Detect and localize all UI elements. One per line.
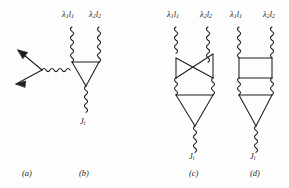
ell-subscript: 2	[98, 13, 101, 19]
feynman-diagram-vectors	[0, 0, 289, 188]
ell-subscript: 1	[176, 13, 179, 19]
panel-d-triangle-right-side	[256, 95, 272, 126]
caption-b: (b)	[79, 169, 89, 178]
panel-a-photon-wave	[42, 68, 70, 71]
panel-c-connector-left	[175, 78, 178, 95]
panel-c-triangle-left-side	[176, 95, 195, 126]
panel-b-photon-left	[70, 27, 73, 62]
panel-d-triangle-left-side	[239, 95, 256, 126]
panel-c-current-wave	[193, 126, 196, 152]
panel-d-photon-right	[270, 27, 273, 58]
ell-subscript: 2	[272, 13, 275, 19]
panel-c-photon-left	[174, 27, 177, 53]
panel-b-triangle-diagram	[70, 27, 100, 112]
panel-b-triangle-left-side	[72, 62, 86, 86]
ell-subscript: 1	[239, 13, 242, 19]
panel-c-photon1-label: λ1l1	[167, 10, 179, 19]
panel-a-fermion-line-lower	[16, 70, 42, 84]
panel-d-photon1-label: λ1l1	[230, 10, 242, 19]
panel-a-vertex-diagram	[16, 50, 70, 87]
panel-d-connector-left	[238, 78, 241, 95]
panel-b-photon1-label: λ1l1	[62, 10, 74, 19]
ell-subscript: 1	[71, 13, 74, 19]
panel-c-cross-diagonal-2	[176, 54, 213, 78]
panel-b-photon-right	[97, 27, 100, 62]
j-subscript: i	[193, 155, 195, 161]
panel-c-triangle-right-side	[195, 95, 213, 126]
panel-c-photon2-label: λ2l2	[200, 10, 212, 19]
panel-d-current-wave	[254, 126, 257, 152]
panel-c-connector-right	[212, 78, 215, 95]
panel-d-connector-right	[271, 78, 274, 95]
panel-c-current-label: Ji	[189, 152, 194, 161]
panel-d-photon2-label: λ2l2	[263, 10, 275, 19]
panel-b-current-label: Ji	[80, 117, 85, 126]
ell-subscript: 2	[209, 13, 212, 19]
figure-canvas: λ1l1 λ2l2 Ji λ1l1 λ2l2 Ji λ1l1 λ2l2 Ji (…	[0, 0, 289, 188]
j-subscript: i	[84, 120, 86, 126]
panel-d-current-label: Ji	[250, 152, 255, 161]
caption-a: (a)	[22, 169, 32, 178]
panel-d-box-diagram	[237, 27, 273, 152]
caption-c: (c)	[189, 169, 198, 178]
panel-d-photon-left	[237, 27, 240, 58]
j-subscript: i	[254, 155, 256, 161]
caption-d: (d)	[250, 169, 260, 178]
panel-c-crossed-box-diagram	[174, 27, 214, 152]
panel-b-triangle-right-side	[86, 62, 99, 86]
panel-b-current-wave	[84, 86, 87, 112]
panel-b-photon2-label: λ2l2	[89, 10, 101, 19]
